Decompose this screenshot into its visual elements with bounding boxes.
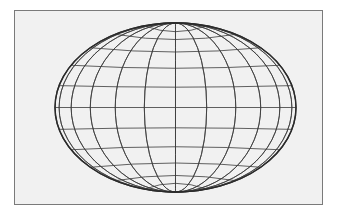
wireframe-ellipsoid	[0, 0, 341, 213]
